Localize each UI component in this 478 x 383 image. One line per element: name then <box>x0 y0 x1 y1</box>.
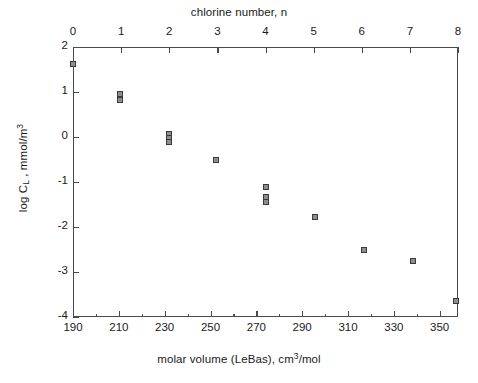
left-axis-title-superscript: 3 <box>15 124 25 129</box>
tick-label-top-6: 6 <box>347 25 377 37</box>
tick-bottom-310 <box>348 311 349 317</box>
left-axis-title-prefix: log C <box>17 185 29 212</box>
tick-bottom-330 <box>394 311 395 317</box>
tick-label-left--4: -4 <box>42 309 68 321</box>
tick-top-7 <box>410 47 411 53</box>
tick-left-0 <box>73 137 79 138</box>
data-point-7 <box>263 184 269 190</box>
tick-label-bottom-250: 250 <box>191 321 231 333</box>
tick-left--2 <box>73 227 79 228</box>
tick-bottom-270 <box>256 311 257 317</box>
tick-label-bottom-230: 230 <box>145 321 185 333</box>
tick-label-left--3: -3 <box>42 264 68 276</box>
tick-label-left-0: 0 <box>42 129 68 141</box>
tick-bottom-250 <box>211 311 212 317</box>
tick-left--4 <box>73 317 79 318</box>
left-axis-title-subscript: L <box>21 180 31 185</box>
left-axis-title: log CL , mmol/m3 <box>15 83 31 253</box>
left-axis-title-mid: , mmol/m <box>17 129 29 180</box>
data-point-13 <box>453 298 459 304</box>
data-point-2 <box>117 97 123 103</box>
tick-label-bottom-190: 190 <box>53 321 93 333</box>
tick-label-left-1: 1 <box>42 84 68 96</box>
data-point-6 <box>213 157 219 163</box>
tick-top-8 <box>458 47 459 53</box>
tick-left--3 <box>73 272 79 273</box>
tick-bottom-350 <box>440 311 441 317</box>
tick-label-left--2: -2 <box>42 219 68 231</box>
tick-label-top-0: 0 <box>58 25 88 37</box>
tick-label-left--1: -1 <box>42 174 68 186</box>
tick-top-1 <box>121 47 122 53</box>
tick-label-bottom-290: 290 <box>282 321 322 333</box>
tick-top-3 <box>217 47 218 53</box>
bottom-axis-title: molar volume (LeBas), cm3/mol <box>0 351 478 365</box>
tick-bottom-minor-280 <box>279 314 280 318</box>
tick-label-bottom-330: 330 <box>374 321 414 333</box>
scatter-chart: chlorine number, n molar volume (LeBas),… <box>0 0 478 383</box>
tick-top-4 <box>266 47 267 53</box>
tick-bottom-minor-340 <box>417 314 418 318</box>
tick-bottom-minor-320 <box>371 314 372 318</box>
tick-top-6 <box>362 47 363 53</box>
bottom-axis-title-prefix: molar volume (LeBas), cm <box>157 353 294 365</box>
tick-bottom-minor-200 <box>96 314 97 318</box>
tick-label-top-7: 7 <box>395 25 425 37</box>
data-point-9 <box>263 199 269 205</box>
tick-bottom-minor-220 <box>142 314 143 318</box>
tick-left--1 <box>73 182 79 183</box>
tick-bottom-290 <box>302 311 303 317</box>
tick-label-bottom-310: 310 <box>328 321 368 333</box>
tick-label-left-2: 2 <box>42 39 68 51</box>
tick-left-1 <box>73 92 79 93</box>
bottom-axis-title-suffix: /mol <box>299 353 321 365</box>
tick-label-bottom-210: 210 <box>99 321 139 333</box>
tick-label-top-1: 1 <box>106 25 136 37</box>
data-point-5 <box>166 139 172 145</box>
data-point-11 <box>361 247 367 253</box>
data-point-0 <box>70 61 76 67</box>
tick-label-top-8: 8 <box>443 25 473 37</box>
data-point-10 <box>312 214 318 220</box>
tick-label-bottom-270: 270 <box>236 321 276 333</box>
tick-label-bottom-350: 350 <box>420 321 460 333</box>
tick-top-5 <box>314 47 315 53</box>
plot-area <box>73 47 458 317</box>
top-axis-title: chlorine number, n <box>0 6 478 18</box>
tick-bottom-210 <box>119 311 120 317</box>
tick-label-top-4: 4 <box>251 25 281 37</box>
tick-bottom-minor-260 <box>233 314 234 318</box>
data-point-12 <box>410 258 416 264</box>
tick-label-top-2: 2 <box>154 25 184 37</box>
tick-label-top-3: 3 <box>202 25 232 37</box>
tick-bottom-minor-240 <box>188 314 189 318</box>
tick-label-top-5: 5 <box>299 25 329 37</box>
tick-bottom-minor-300 <box>325 314 326 318</box>
tick-top-2 <box>169 47 170 53</box>
tick-bottom-230 <box>165 311 166 317</box>
tick-left-2 <box>73 47 79 48</box>
